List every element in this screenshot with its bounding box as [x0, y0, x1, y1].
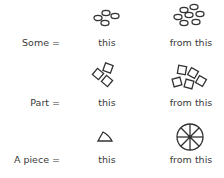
- caption-this-part: this: [92, 97, 122, 108]
- caption-this-some: this: [92, 37, 122, 48]
- pie-wedge-icon: [92, 126, 122, 150]
- caption-from-this-a-piece: from this: [168, 154, 214, 165]
- three-squares-icon: [88, 58, 128, 94]
- row-label-some: Some =: [0, 37, 60, 48]
- seven-ovals-icon: [166, 0, 216, 34]
- row-label-part: Part =: [0, 97, 60, 108]
- caption-from-this-part: from this: [168, 97, 214, 108]
- five-squares-icon: [166, 60, 216, 96]
- row-label-a-piece: A piece =: [0, 154, 60, 165]
- caption-this-a-piece: this: [92, 154, 122, 165]
- caption-from-this-some: from this: [168, 37, 214, 48]
- sliced-circle-icon: [171, 118, 211, 158]
- four-ovals-icon: [88, 4, 128, 34]
